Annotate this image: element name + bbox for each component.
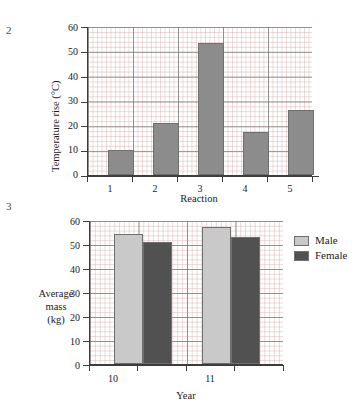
legend-swatch-female [294, 251, 309, 261]
chart2-xtick-mark-0 [89, 365, 90, 371]
chart1-x-axis-line [87, 176, 319, 177]
chart1-plot-area [87, 27, 312, 176]
bar-reaction-2 [153, 123, 179, 175]
chart1-xtick-label-1: 1 [95, 184, 125, 194]
bar-year-11-male [202, 227, 231, 364]
legend-label-female: Female [315, 250, 347, 261]
chart1-xtick-mark-5 [312, 176, 313, 182]
chart2-xtick-label-11: 11 [195, 374, 225, 384]
chart1-ytick-60: 60 [56, 23, 78, 33]
chart2-xtick-label-10: 10 [98, 374, 128, 384]
legend-item-female: Female [294, 250, 347, 261]
chart2-bars [90, 221, 283, 364]
chart2-ytick-50: 50 [58, 241, 80, 251]
chart2-ytick-20: 20 [58, 313, 80, 323]
chart2-ytick-40: 40 [58, 265, 80, 275]
bar-reaction-4 [243, 132, 269, 176]
legend-item-male: Male [294, 235, 347, 246]
chart2-xtick-mark-3 [234, 365, 235, 371]
chart1-xtick-mark-4 [267, 176, 268, 182]
chart2-ytick-0: 0 [58, 361, 80, 371]
bar-year-10-male [114, 234, 143, 364]
legend-swatch-male [294, 236, 309, 246]
temperature-rise-chart: Temperature rise (°C) 60 50 40 30 20 10 … [0, 0, 359, 200]
chart2-xtick-mark-2 [186, 365, 187, 371]
chart1-xtick-mark-2 [177, 176, 178, 182]
chart1-xtick-mark-0 [87, 176, 88, 182]
chart1-xtick-mark-3 [222, 176, 223, 182]
chart1-ytick-20: 20 [56, 121, 78, 131]
chart1-xtick-label-5: 5 [275, 184, 305, 194]
bar-reaction-5 [288, 110, 314, 175]
bar-year-10-female [143, 242, 172, 364]
bar-reaction-3 [198, 43, 224, 175]
chart1-ytick-10: 10 [56, 145, 78, 155]
chart2-ytick-60: 60 [58, 217, 80, 227]
bar-year-11-female [231, 237, 260, 364]
chart1-x-axis-title: Reaction [149, 193, 249, 205]
chart2-ytick-10: 10 [58, 337, 80, 347]
chart1-bars [88, 27, 312, 175]
chart2-xtick-mark-4 [283, 365, 284, 371]
chart2-xtick-mark-1 [137, 365, 138, 371]
chart2-ytick-30: 30 [58, 289, 80, 299]
chart1-xtick-mark-1 [132, 176, 133, 182]
bar-reaction-1 [108, 150, 134, 175]
chart1-ytick-0: 0 [56, 170, 78, 180]
legend-label-male: Male [315, 235, 338, 246]
chart1-ytick-40: 40 [56, 72, 78, 82]
chart2-legend: Male Female [294, 235, 347, 265]
average-mass-chart: Average mass (kg) 60 50 40 30 20 10 0 10… [0, 205, 359, 420]
chart1-ytick-30: 30 [56, 96, 78, 106]
chart2-x-axis-title: Year [136, 390, 236, 402]
chart1-ytick-50: 50 [56, 47, 78, 57]
chart2-plot-area [89, 221, 283, 365]
